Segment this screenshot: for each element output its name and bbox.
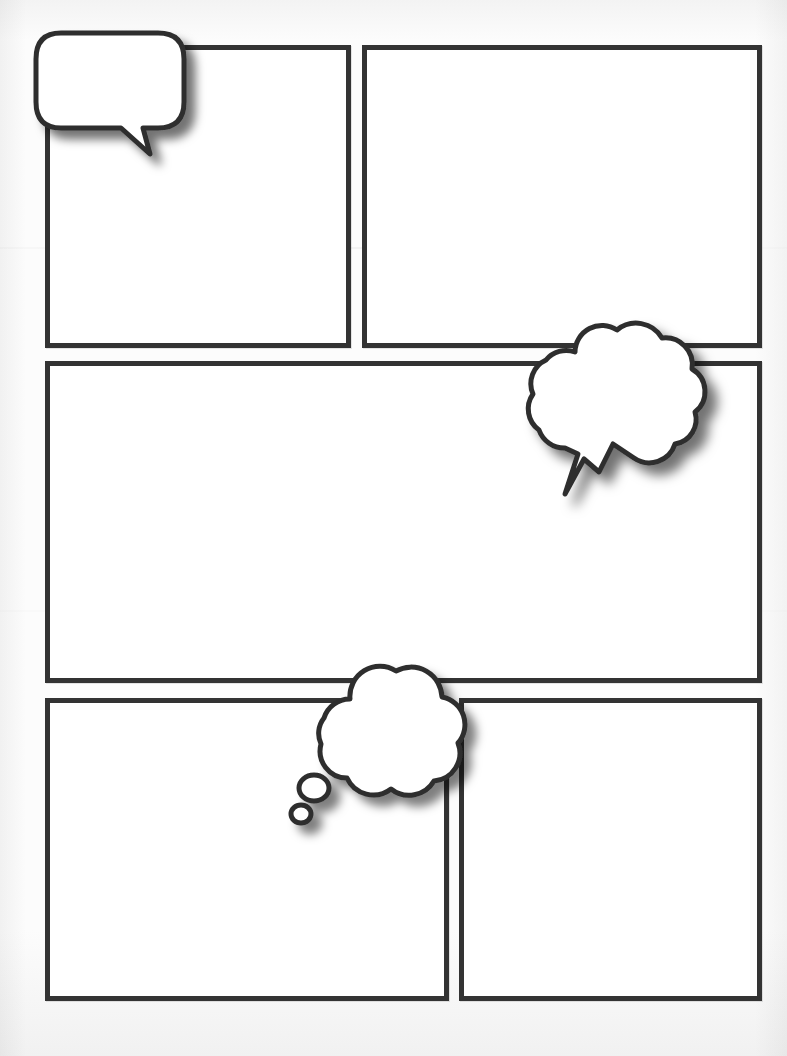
thought-balloon-outline[interactable]: [319, 666, 465, 795]
thought-balloon-trail-dot-large: [299, 775, 329, 801]
comic-panel-bottom-right[interactable]: [459, 698, 762, 1001]
comic-panel-top-right[interactable]: [362, 45, 762, 348]
thought-balloon-trail-dot-small: [291, 805, 311, 823]
comic-page: [0, 0, 787, 1056]
